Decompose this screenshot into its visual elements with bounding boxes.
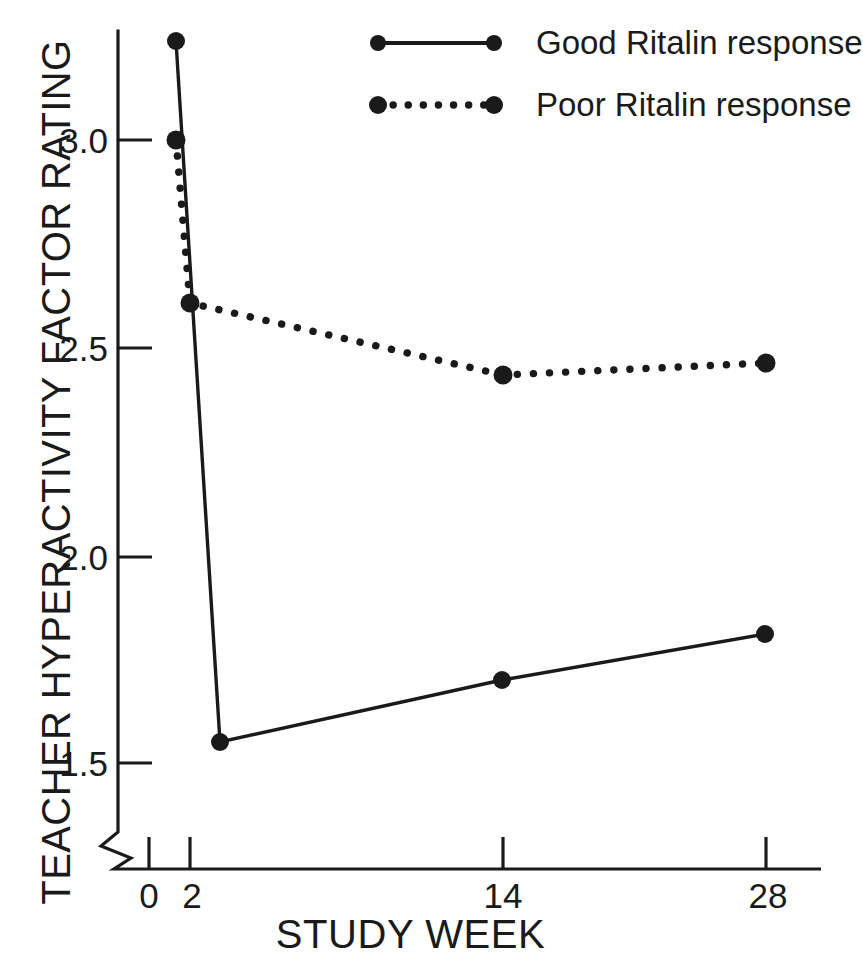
legend-item-good-ritalin-response: Good Ritalin response bbox=[368, 12, 814, 74]
y-tick-label-3-0: 3.0 bbox=[59, 121, 108, 160]
data-point-poor-w28 bbox=[757, 354, 776, 373]
data-point-good-w2 bbox=[211, 733, 229, 751]
x-tick-label-28: 28 bbox=[749, 876, 788, 915]
x-tick-label-14: 14 bbox=[484, 876, 523, 915]
data-point-poor-w2 bbox=[181, 294, 200, 313]
y-tick-label-1-5: 1.5 bbox=[59, 744, 108, 783]
data-point-good-w0 bbox=[167, 32, 185, 50]
y-axis-line bbox=[101, 31, 821, 869]
chart-legend: Good Ritalin response Poor Ritalin respo… bbox=[368, 12, 814, 136]
data-point-good-w28 bbox=[756, 625, 774, 643]
x-axis-title: STUDY WEEK bbox=[0, 912, 821, 957]
series-good-ritalin-response bbox=[176, 41, 765, 742]
legend-swatch-dotted-line bbox=[368, 91, 504, 119]
legend-swatch-solid-line bbox=[368, 29, 504, 57]
legend-label-poor-ritalin-response: Poor Ritalin response bbox=[504, 86, 852, 124]
legend-label-good-ritalin-response: Good Ritalin response bbox=[504, 24, 863, 62]
legend-item-poor-ritalin-response: Poor Ritalin response bbox=[368, 74, 814, 136]
x-axis-title-text: STUDY WEEK bbox=[276, 912, 546, 956]
x-tick-label-2: 2 bbox=[182, 876, 201, 915]
x-tick-label-0: 0 bbox=[139, 876, 158, 915]
data-point-good-w14 bbox=[493, 671, 511, 689]
data-point-poor-w14 bbox=[494, 366, 513, 385]
series-poor-ritalin-response bbox=[176, 140, 766, 375]
y-tick-label-2-0: 2.0 bbox=[59, 538, 108, 577]
y-tick-label-2-5: 2.5 bbox=[59, 329, 108, 368]
